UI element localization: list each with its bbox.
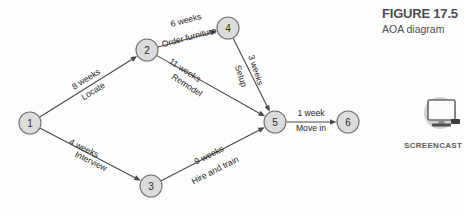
edge-label-1-to-3: 4 weeksInterview	[68, 137, 110, 174]
screencast-label: SCREENCAST	[404, 141, 462, 150]
figure-number: FIGURE 17.5	[382, 6, 462, 21]
edge-label-1-to-2: 8 weeksLocate	[70, 66, 107, 102]
edge-duration-label: 6 weeks	[169, 11, 202, 29]
edge-arrowhead	[330, 119, 337, 124]
edge-activity-label: Move in	[296, 123, 326, 133]
node-2[interactable]: 2	[136, 39, 158, 61]
figure-caption-panel: FIGURE 17.5 AOA diagram	[382, 6, 462, 36]
monitor-icon	[414, 97, 466, 139]
nodes-layer: 123456	[19, 17, 359, 197]
edge-label-2-to-4: 6 weeksOrder furniture	[161, 11, 218, 49]
monitor-base	[432, 124, 451, 127]
edge-labels-layer: 8 weeksLocate6 weeksOrder furniture11 we…	[68, 11, 327, 186]
monitor-icon-svg	[414, 97, 466, 139]
aoa-diagram-svg: 123456 8 weeksLocate6 weeksOrder furnitu…	[0, 0, 370, 216]
monitor-screen	[428, 100, 455, 120]
node-5[interactable]: 5	[264, 111, 286, 133]
edge-label-3-to-5: 9 weeksHire and train	[190, 143, 241, 186]
edge-line	[40, 60, 132, 117]
node-label: 1	[27, 118, 33, 129]
edge-duration-label: 1 week	[297, 108, 325, 118]
node-6[interactable]: 6	[337, 111, 359, 133]
node-label: 5	[272, 117, 278, 128]
monitor-neck	[439, 120, 445, 124]
node-label: 3	[148, 181, 154, 192]
node-4[interactable]: 4	[217, 17, 239, 39]
node-3[interactable]: 3	[140, 175, 162, 197]
node-label: 4	[225, 23, 231, 34]
figure-caption-text: AOA diagram	[382, 22, 462, 36]
edge-label-2-to-5: 11 weeksRemodel	[167, 56, 204, 99]
node-1[interactable]: 1	[19, 112, 41, 134]
screencast-badge[interactable]: SCREENCAST	[404, 97, 462, 161]
edge-activity-label: Order furniture	[161, 25, 218, 49]
node-label: 6	[345, 117, 351, 128]
edge-label-5-to-6: 1 weekMove in	[296, 108, 326, 133]
node-label: 2	[144, 45, 150, 56]
edge-1-to-2	[40, 56, 137, 117]
monitor-accent	[451, 119, 460, 124]
edge-activity-label: Setup	[233, 64, 250, 89]
edge-arrowhead	[130, 56, 137, 62]
aoa-diagram-panel: 123456 8 weeksLocate6 weeksOrder furnitu…	[0, 0, 370, 216]
